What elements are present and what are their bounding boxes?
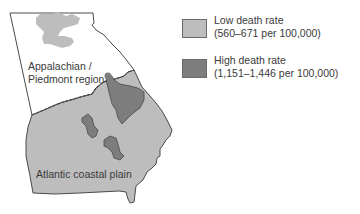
region-label-atlantic-coastal-plain: Atlantic coastal plain	[36, 168, 132, 181]
legend-range-high: (1,151–1,446 per 100,000)	[214, 67, 338, 80]
legend-swatch-low	[182, 19, 207, 38]
map-legend: Low death rate (560–671 per 100,000) Hig…	[182, 14, 360, 94]
georgia-map: Appalachian / Piedmont region Atlantic c…	[0, 0, 200, 214]
legend-label-low: Low death rate	[214, 14, 321, 27]
legend-range-low: (560–671 per 100,000)	[214, 27, 321, 40]
high-rate-dot	[105, 73, 112, 80]
region-label-appalachian-piedmont: Appalachian / Piedmont region	[28, 60, 104, 86]
legend-item-high: High death rate (1,151–1,446 per 100,000…	[182, 54, 360, 90]
legend-swatch-high	[182, 59, 207, 78]
legend-item-low: Low death rate (560–671 per 100,000)	[182, 14, 360, 50]
georgia-map-svg	[0, 0, 200, 214]
legend-label-high: High death rate	[214, 54, 338, 67]
